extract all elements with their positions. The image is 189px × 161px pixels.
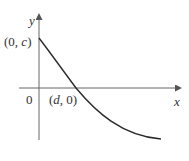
origin-label: 0	[26, 93, 33, 106]
function-graph: y x 0 (0, c) (d, 0)	[0, 0, 189, 161]
y-intercept-label: (0, c)	[4, 35, 31, 48]
x-axis-label: x	[174, 95, 180, 108]
y-axis-label: y	[29, 14, 35, 27]
y-intercept-label-open: (0,	[4, 34, 21, 49]
x-intercept-label-close: , 0)	[60, 92, 77, 107]
y-intercept-label-close: )	[27, 34, 31, 49]
x-intercept-label: (d, 0)	[49, 93, 77, 106]
